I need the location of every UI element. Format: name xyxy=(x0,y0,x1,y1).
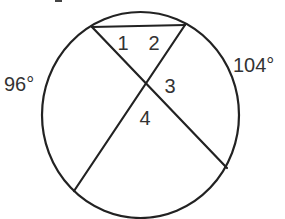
right-arc-measure-label: 104° xyxy=(233,54,274,76)
angle-2-label: 2 xyxy=(148,32,159,54)
cropped-text-fragment xyxy=(55,0,62,2)
top-chord xyxy=(92,25,185,27)
angle-4-label: 4 xyxy=(139,107,150,129)
angle-3-label: 3 xyxy=(164,75,175,97)
circle-chord-diagram: 1 2 3 4 96° 104° xyxy=(0,0,285,219)
angle-1-label: 1 xyxy=(117,32,128,54)
left-arc-measure-label: 96° xyxy=(4,73,34,95)
